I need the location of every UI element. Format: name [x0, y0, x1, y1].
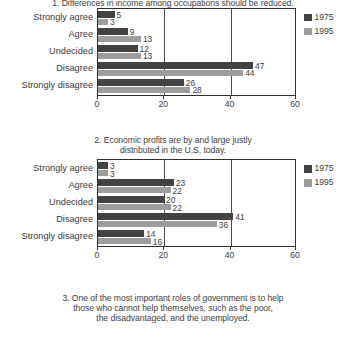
chart-2-bar-1975-2: [98, 196, 164, 202]
legend-swatch-1975-icon: [304, 14, 312, 22]
chart-2-legend: 1975 1995: [304, 163, 346, 191]
chart-1-xtick-label-2: 40: [225, 99, 235, 109]
chart-1-category-label-0: Strongly agree: [0, 12, 93, 22]
chart-2-category-labels: Strongly agree Agree Undecided Disagree …: [0, 159, 93, 247]
chart-1-bar-1975-4: [98, 79, 184, 85]
chart-block-3: 3. One of the most important roles of go…: [0, 293, 346, 324]
chart-1-gridline-40: [231, 9, 232, 95]
chart-1-bar-1995-2: [98, 53, 141, 59]
chart-1-bar-1995-1: [98, 36, 141, 42]
chart-1-legend: 1975 1995: [304, 12, 346, 40]
figure-page: 1. Differences in income among occupatio…: [0, 0, 346, 338]
chart-2-value-1995-0: 3: [110, 170, 115, 178]
chart-block-2: 2. Economic profits are by and large jus…: [0, 135, 346, 261]
chart-2-legend-item-1975: 1975: [304, 163, 346, 174]
chart-1-category-label-4: Strongly disagree: [0, 80, 93, 90]
chart-2-area: Strongly agree Agree Undecided Disagree …: [0, 159, 346, 261]
chart-1-category-label-2: Undecided: [0, 46, 93, 56]
chart-1-bar-1995-4: [98, 87, 190, 93]
chart-2-legend-item-1995: 1995: [304, 177, 346, 188]
chart-2-category-label-4: Strongly disagree: [0, 231, 93, 241]
chart-2-bar-1995-1: [98, 187, 171, 193]
chart-2-bar-1975-4: [98, 230, 144, 236]
chart-2-bar-1995-0: [98, 170, 108, 176]
chart-2-value-1995-3: 36: [219, 221, 228, 229]
chart-2-value-1995-2: 22: [173, 204, 182, 212]
chart-1-x-axis: 0 20 40 60: [97, 96, 296, 110]
chart-2-value-1995-1: 22: [173, 187, 182, 195]
chart-2-category-label-2: Undecided: [0, 197, 93, 207]
chart-1-category-label-3: Disagree: [0, 63, 93, 73]
chart-2-value-1975-3: 41: [235, 213, 244, 221]
chart-2-x-axis: 0 20 40 60: [97, 247, 296, 261]
chart-1-plot-frame: 5 3 9 13 12 13: [97, 8, 296, 96]
chart-1-legend-item-1995: 1995: [304, 26, 346, 37]
chart-2-title-line-1: 2. Economic profits are by and large jus…: [0, 135, 346, 145]
chart-3-title-line-1: 3. One of the most important roles of go…: [0, 293, 346, 303]
chart-1-value-1995-0: 3: [110, 18, 115, 26]
chart-2-title-line-2: distributed in the U.S. today.: [0, 145, 346, 155]
chart-1-value-1995-3: 44: [245, 69, 254, 77]
chart-2-category-label-3: Disagree: [0, 214, 93, 224]
chart-1-xtick-label-3: 60: [290, 99, 300, 109]
legend-swatch-1975-icon: [304, 165, 312, 173]
chart-1-legend-label-1995: 1995: [315, 27, 334, 36]
chart-1-category-label-1: Agree: [0, 29, 93, 39]
chart-2-xtick-label-0: 0: [95, 250, 100, 260]
chart-1-bar-1975-1: [98, 28, 128, 34]
chart-2-bar-1975-1: [98, 179, 174, 185]
chart-1-bar-1975-3: [98, 62, 253, 68]
chart-1-legend-label-1975: 1975: [315, 13, 334, 22]
chart-1-bar-1975-2: [98, 45, 138, 51]
chart-2-bar-1975-3: [98, 213, 233, 219]
chart-2-bar-1995-4: [98, 238, 151, 244]
chart-2-bar-1975-0: [98, 162, 108, 168]
chart-3-title-line-2: those who cannot help themselves, such a…: [0, 303, 346, 313]
chart-2-legend-label-1975: 1975: [315, 164, 334, 173]
chart-1-title-line-1: 1. Differences in income among occupatio…: [0, 0, 346, 8]
chart-2-category-label-1: Agree: [0, 180, 93, 190]
chart-2-plot-frame: 3 3 23 22 20 22 41: [97, 159, 296, 247]
chart-2-value-1995-4: 16: [153, 238, 162, 246]
chart-1-bar-1995-3: [98, 70, 243, 76]
chart-1-value-1975-3: 47: [255, 62, 264, 70]
chart-1-value-1975-0: 5: [117, 11, 122, 19]
chart-3-title-line-3: the disadvantaged, and the unemployed.: [0, 313, 346, 323]
chart-2-legend-label-1995: 1995: [315, 178, 334, 187]
chart-1-value-1995-4: 28: [192, 86, 201, 94]
chart-2-category-label-0: Strongly agree: [0, 163, 93, 173]
chart-1-xtick-label-0: 0: [95, 99, 100, 109]
chart-1-value-1995-2: 13: [143, 52, 152, 60]
chart-1-value-1995-1: 13: [143, 35, 152, 43]
chart-2-xtick-label-1: 20: [159, 250, 169, 260]
chart-2-bar-1995-3: [98, 221, 217, 227]
chart-1-bar-1995-0: [98, 19, 108, 25]
chart-2-bar-1995-2: [98, 204, 171, 210]
chart-2-gridline-40: [231, 160, 232, 246]
chart-1-xtick-label-1: 20: [159, 99, 169, 109]
chart-1-category-labels: Strongly agree Agree Undecided Disagree …: [0, 8, 93, 96]
legend-swatch-1995-icon: [304, 28, 312, 36]
chart-1-legend-item-1975: 1975: [304, 12, 346, 23]
chart-2-xtick-label-2: 40: [225, 250, 235, 260]
chart-block-1: 1. Differences in income among occupatio…: [0, 0, 346, 110]
chart-2-xtick-label-3: 60: [290, 250, 300, 260]
chart-1-area: Strongly agree Agree Undecided Disagree …: [0, 8, 346, 110]
legend-swatch-1995-icon: [304, 179, 312, 187]
